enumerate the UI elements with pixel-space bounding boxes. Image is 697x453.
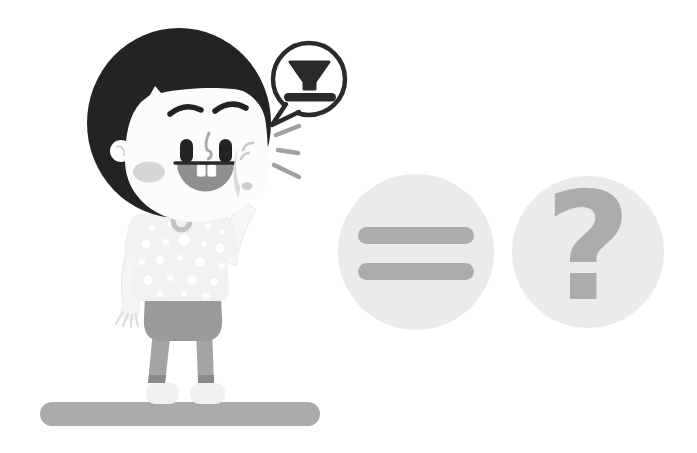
right-shoe [190, 383, 225, 404]
thumb-mark [242, 182, 253, 190]
left-eye [180, 139, 193, 163]
left-ankle-cuff [148, 375, 166, 383]
tooth-left [197, 165, 206, 177]
equals-icon [358, 174, 474, 330]
right-eye [219, 139, 232, 163]
boy-shorts [144, 297, 222, 341]
boy-head [87, 28, 271, 222]
sound-lines-icon [274, 126, 299, 177]
speech-bubble-icon [272, 43, 345, 125]
tooth-right [208, 165, 217, 177]
boy-shoes [146, 383, 225, 404]
equals-bar-top [358, 227, 474, 244]
cheek [133, 162, 165, 183]
right-ankle-cuff [198, 375, 214, 383]
boy-shirt [124, 214, 238, 301]
question-circle: ? [512, 176, 664, 328]
left-shoe [146, 383, 179, 404]
equals-circle [338, 174, 494, 330]
equals-bar-bottom [358, 263, 474, 280]
funnel-base-line [284, 93, 336, 102]
illustration-canvas: ? [0, 0, 697, 453]
question-mark: ? [544, 172, 631, 322]
ground-platform [40, 402, 320, 426]
cupped-hand [236, 131, 270, 199]
